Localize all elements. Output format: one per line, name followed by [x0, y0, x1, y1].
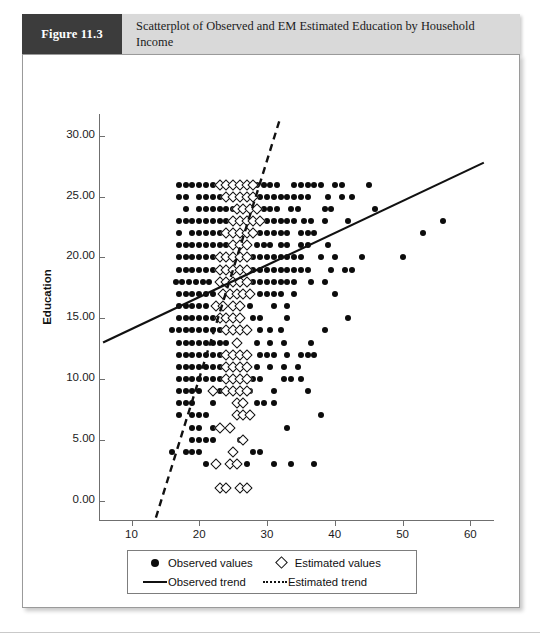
legend-observed-values-label: Observed values	[168, 557, 253, 569]
scatter-plot: Education 0.005.0010.0015.0020.0025.0030…	[23, 55, 521, 609]
legend-estimated-trend-label: Estimated trend	[288, 576, 367, 588]
trend-lines-layer	[23, 55, 521, 609]
legend-observed-trend-label: Observed trend	[168, 576, 246, 588]
trend-lines-svg	[23, 55, 521, 609]
figure-number-box: Figure 11.3	[22, 14, 122, 54]
estimated-trend-icon	[262, 581, 288, 583]
figure-number-label: Figure 11.3	[41, 27, 103, 42]
figure-title-text: Scatterplot of Observed and EM Estimated…	[136, 18, 506, 50]
legend-row-trends: Observed trend Estimated trend	[128, 572, 416, 591]
legend-estimated-values-label: Estimated values	[295, 557, 381, 569]
observed-trend-line	[103, 163, 484, 343]
figure-header: Figure 11.3 Scatterplot of Observed and …	[22, 14, 520, 54]
observed-trend-icon	[142, 581, 168, 583]
figure-title-box: Scatterplot of Observed and EM Estimated…	[122, 14, 520, 54]
legend-row-values: Observed values Estimated values	[128, 553, 416, 572]
estimated-values-icon	[269, 558, 295, 567]
plot-frame: Education 0.005.0010.0015.0020.0025.0030…	[22, 54, 520, 608]
figure-container: Figure 11.3 Scatterplot of Observed and …	[0, 0, 540, 639]
estimated-trend-line	[156, 121, 279, 517]
legend: Observed values Estimated values Observe…	[127, 550, 417, 594]
page-rule	[0, 632, 540, 633]
observed-values-icon	[142, 559, 168, 567]
